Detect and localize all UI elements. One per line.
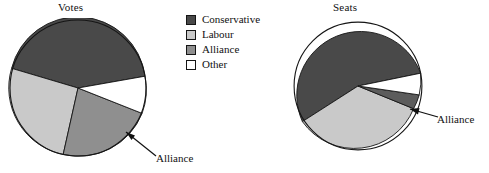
votes-alliance-annotation-label: Alliance (156, 152, 193, 164)
legend-label-conservative: Conservative (202, 14, 260, 25)
seats-alliance-annotation-label: Alliance (437, 113, 474, 125)
seats-pie-slices (297, 31, 421, 148)
legend-swatch-labour (186, 30, 196, 40)
pie-charts-figure: Votes Alliance Conservative Labour Allia… (0, 0, 489, 173)
legend-label-labour: Labour (202, 29, 234, 40)
legend-swatch-alliance (186, 45, 196, 55)
legend-item-other: Other (186, 58, 260, 71)
legend-item-labour: Labour (186, 28, 260, 41)
seats-chart-title: Seats (333, 1, 357, 13)
legend-item-alliance: Alliance (186, 43, 260, 56)
votes-chart-title: Votes (58, 1, 83, 13)
legend-swatch-conservative (186, 15, 196, 25)
votes-pie-chart (8, 18, 148, 158)
legend-item-conservative: Conservative (186, 13, 260, 26)
legend-swatch-other (186, 60, 196, 70)
legend: Conservative Labour Alliance Other (186, 13, 260, 71)
legend-label-alliance: Alliance (202, 44, 239, 55)
seats-pie-chart (292, 20, 424, 152)
legend-label-other: Other (202, 59, 227, 70)
